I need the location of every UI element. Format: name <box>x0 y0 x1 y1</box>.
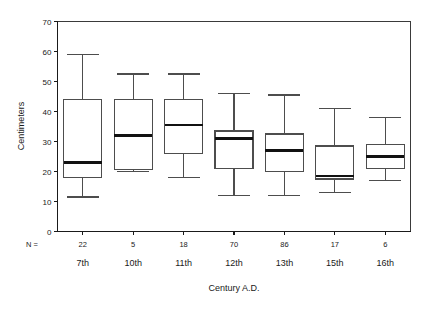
n-count-label: 17 <box>331 240 339 249</box>
y-tick-label: 50 <box>43 78 52 87</box>
box-group <box>64 55 405 198</box>
box-iqr <box>215 131 253 169</box>
y-tick-label: 20 <box>43 168 52 177</box>
box-plot-16th <box>366 118 404 181</box>
y-tick-label: 10 <box>43 198 52 207</box>
category-label: 15th <box>326 258 344 268</box>
n-prefix-label: N = <box>26 240 39 249</box>
y-tick-label: 40 <box>43 108 52 117</box>
boxplot-svg: 010203040506070 225187086176 7th10th11th… <box>0 0 429 311</box>
category-label: 12th <box>225 258 243 268</box>
category-label: 16th <box>377 258 395 268</box>
box-plot-10th <box>114 74 152 172</box>
box-iqr <box>165 100 203 154</box>
box-plot-11th <box>165 74 203 178</box>
y-tick-label: 70 <box>43 18 52 27</box>
category-label-group: 7th10th11th12th13th15th16th <box>76 258 394 268</box>
n-count-label: 18 <box>179 240 187 249</box>
n-count-label: 5 <box>131 240 135 249</box>
n-count-label: 86 <box>280 240 288 249</box>
box-plot-7th <box>64 55 102 198</box>
x-axis-title: Century A.D. <box>208 283 259 293</box>
box-iqr <box>64 100 102 178</box>
box-plot-15th <box>316 109 354 193</box>
category-label: 13th <box>276 258 294 268</box>
boxplot-chart: 010203040506070 225187086176 7th10th11th… <box>0 0 429 311</box>
n-count-label: 70 <box>230 240 238 249</box>
box-iqr <box>265 134 303 172</box>
y-tick-label: 0 <box>47 228 52 237</box>
box-plot-13th <box>265 95 303 196</box>
y-axis-ticks: 010203040506070 <box>43 18 58 237</box>
y-tick-label: 60 <box>43 48 52 57</box>
y-axis-title: Centimeters <box>16 101 26 150</box>
n-count-label: 6 <box>383 240 387 249</box>
box-iqr <box>316 146 354 179</box>
category-label: 7th <box>76 258 89 268</box>
category-label: 10th <box>124 258 142 268</box>
n-count-label: 22 <box>79 240 87 249</box>
category-label: 11th <box>175 258 192 268</box>
y-tick-label: 30 <box>43 138 52 147</box>
n-label-group: 225187086176 <box>79 240 388 249</box>
box-plot-12th <box>215 94 253 196</box>
